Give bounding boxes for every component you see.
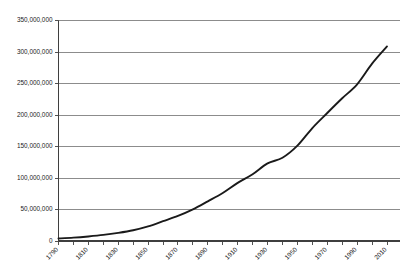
x-axis-tick-label: 1850	[134, 245, 149, 260]
line-chart: 050,000,000100,000,000150,000,000200,000…	[0, 0, 413, 276]
x-axis-tick-labels: 1790181018301850187018901910193019501970…	[44, 245, 388, 260]
y-axis-tick-labels: 050,000,000100,000,000150,000,000200,000…	[17, 16, 59, 244]
gridlines	[59, 21, 401, 242]
y-axis-tick-label: 350,000,000	[17, 16, 53, 23]
x-axis-tick-label: 1790	[44, 245, 59, 260]
x-axis-tick-label: 1830	[104, 245, 119, 260]
chart-container: 050,000,000100,000,000150,000,000200,000…	[0, 0, 413, 276]
y-axis-tick-label: 150,000,000	[17, 142, 53, 149]
x-axis-tick-label: 1990	[343, 245, 358, 260]
x-axis-tick-label: 1870	[164, 245, 179, 260]
y-axis-tick-label: 0	[49, 237, 53, 244]
y-axis-tick-label: 300,000,000	[17, 48, 53, 55]
y-axis-tick-label: 200,000,000	[17, 111, 53, 118]
x-axis-tick-label: 1930	[253, 245, 268, 260]
y-axis-tick-label: 50,000,000	[21, 205, 53, 212]
x-axis-tick-label: 1890	[194, 245, 209, 260]
x-axis-tick-label: 1970	[313, 245, 328, 260]
y-axis-tick-label: 250,000,000	[17, 79, 53, 86]
y-axis-tick-label: 100,000,000	[17, 174, 53, 181]
x-axis-tick-label: 2010	[373, 245, 388, 260]
x-axis-tick-label: 1910	[223, 245, 238, 260]
x-axis-tick-label: 1810	[74, 245, 89, 260]
x-axis-tick-label: 1950	[283, 245, 298, 260]
